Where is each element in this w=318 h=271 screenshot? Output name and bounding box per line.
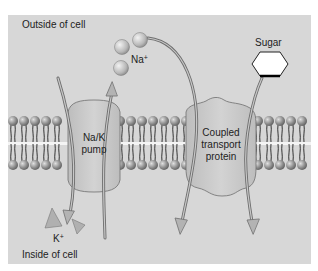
na-ion: [115, 40, 130, 55]
coupled-label-line3: protein: [188, 151, 254, 163]
inside-of-cell-label: Inside of cell: [22, 249, 78, 261]
coupled-transport-protein-label: Coupled transport protein: [188, 127, 254, 163]
sugar-label: Sugar: [255, 37, 282, 49]
pump-label-line1: Na/K: [72, 132, 116, 144]
k-ion-label: K+: [53, 233, 64, 245]
k-charge: +: [60, 233, 64, 240]
na-ion-label: Na+: [131, 54, 148, 66]
na-ion: [114, 61, 129, 76]
pump-label-line2: pump: [72, 144, 116, 156]
na-ion-text: Na: [131, 54, 144, 65]
k-ion: [72, 219, 85, 234]
k-ion-text: K: [53, 233, 60, 244]
na-charge: +: [144, 54, 148, 61]
coupled-label-line2: transport: [188, 139, 254, 151]
bilayer-midline: [8, 142, 311, 145]
na-k-pump-label: Na/K pump: [72, 132, 116, 156]
sugar-icon: [252, 52, 288, 76]
outside-of-cell-label: Outside of cell: [22, 19, 85, 31]
na-ion: [133, 33, 148, 48]
coupled-label-line1: Coupled: [188, 127, 254, 139]
k-ion: [45, 208, 62, 228]
